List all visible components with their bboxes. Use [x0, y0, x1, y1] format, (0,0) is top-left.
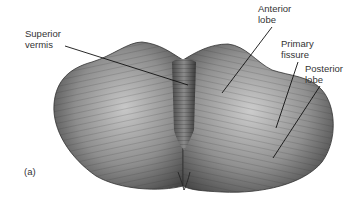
- label-posterior-lobe: Posterior lobe: [305, 63, 343, 85]
- label-primary-fissure: Primary fissure: [281, 38, 314, 60]
- cerebellum-illustration: Superior vermis Anterior lobe Primary fi…: [0, 0, 363, 204]
- label-superior-vermis: Superior vermis: [25, 28, 61, 50]
- panel-label: (a): [24, 166, 36, 177]
- label-anterior-lobe: Anterior lobe: [258, 3, 291, 25]
